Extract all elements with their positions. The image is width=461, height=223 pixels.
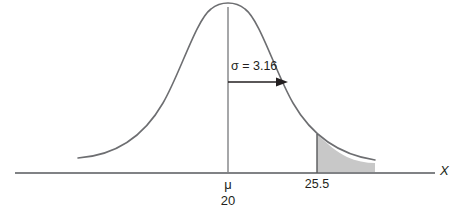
sigma-arrow <box>228 78 288 87</box>
mean-symbol-label: μ <box>224 178 232 191</box>
x-axis-label: X <box>440 164 449 177</box>
normal-distribution-figure: σ = 3.16 μ 20 25.5 X <box>0 0 461 223</box>
normal-curve <box>78 3 375 160</box>
mean-value-label: 20 <box>221 194 235 207</box>
sigma-annotation-label: σ = 3.16 <box>231 60 277 73</box>
cutoff-value-label: 25.5 <box>305 178 329 191</box>
